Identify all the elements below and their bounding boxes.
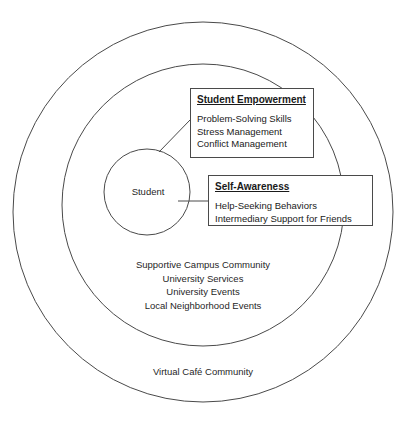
callout-item: Intermediary Support for Friends (215, 213, 367, 226)
callout-title-self-awareness: Self-Awareness (215, 180, 367, 193)
middle-ring-item-list: Supportive Campus Community University S… (63, 258, 343, 312)
callout-student-empowerment: Student Empowerment Problem-Solving Skil… (190, 88, 314, 158)
callout-item: Stress Management (197, 126, 308, 139)
callout-item: Conflict Management (197, 138, 308, 151)
middle-ring-item: Supportive Campus Community (63, 258, 343, 272)
callout-items-student-empowerment: Problem-Solving Skills Stress Management… (197, 113, 308, 151)
callout-title-student-empowerment: Student Empowerment (197, 93, 308, 106)
callout-item: Help-Seeking Behaviors (215, 200, 367, 213)
middle-ring-item: Local Neighborhood Events (63, 299, 343, 313)
callout-self-awareness: Self-Awareness Help-Seeking Behaviors In… (208, 175, 373, 226)
diagram-canvas: Student Supportive Campus Community Univ… (0, 0, 407, 426)
middle-ring-item: University Events (63, 285, 343, 299)
middle-ring-item: University Services (63, 272, 343, 286)
outer-circle-label: Virtual Café Community (103, 366, 303, 378)
inner-circle-label: Student (105, 186, 191, 198)
callout-item: Problem-Solving Skills (197, 113, 308, 126)
callout-items-self-awareness: Help-Seeking Behaviors Intermediary Supp… (215, 200, 367, 225)
